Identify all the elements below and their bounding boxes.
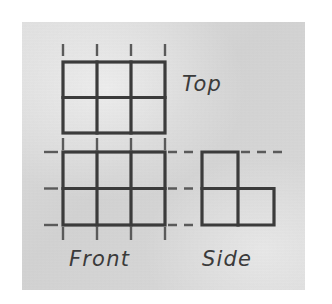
front-view-label: Front [69,249,130,270]
top-view-label: Top [182,74,222,95]
projection-dashes-below-front [63,227,165,240]
projection-dashes-front-to-side [168,152,200,225]
orthographic-drawing [0,0,332,304]
side-view-label: Side [202,249,252,270]
side-view [202,152,274,225]
projection-dashes-left-of-front [44,152,58,225]
front-view [63,152,165,225]
projection-dashes-between-top-and-front [63,138,165,150]
top-view [63,62,165,133]
projection-dashes-above-top [63,44,165,56]
figure-root: Top Front Side [0,0,332,304]
